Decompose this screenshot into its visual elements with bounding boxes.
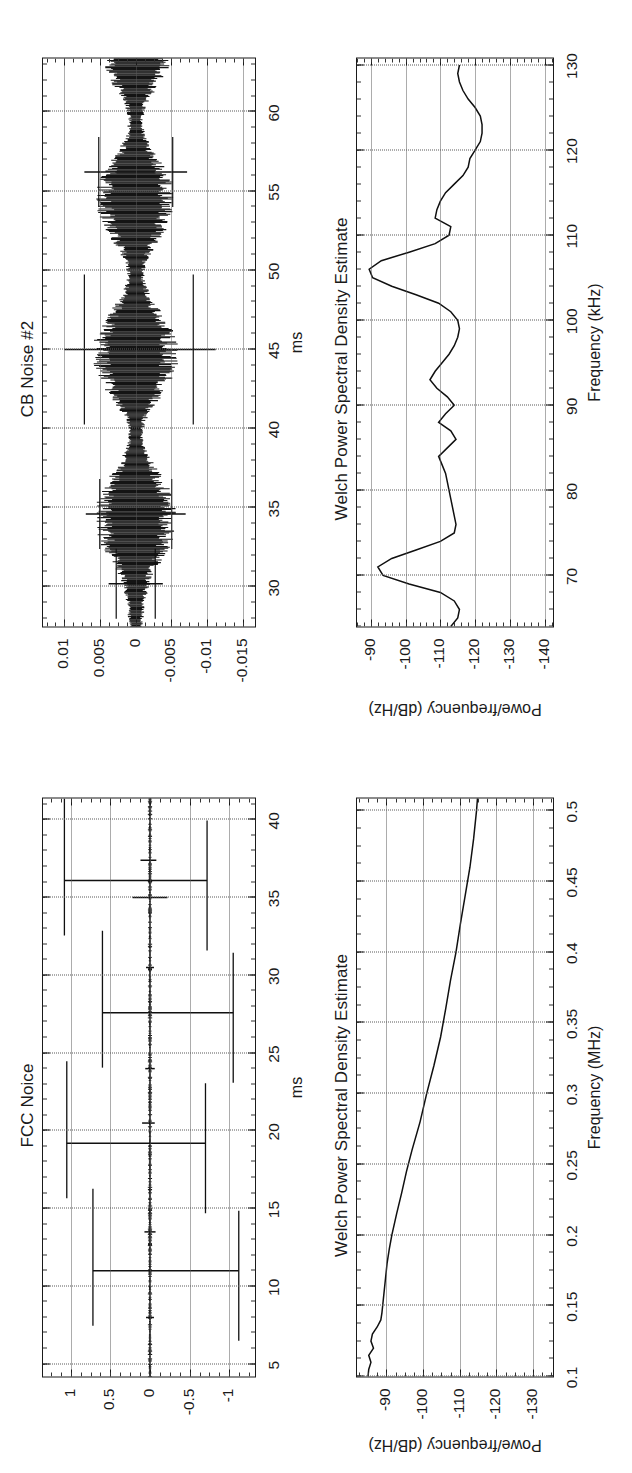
series-cb-time [43, 58, 255, 626]
y-tick-minor [506, 798, 507, 802]
y-tick-minor [377, 798, 378, 802]
y-tick-label: -0.005 [161, 638, 179, 737]
y-tick-minor [531, 58, 532, 62]
xaxis-label-fcc-time: ms [288, 1076, 306, 1097]
y-tick-minor [180, 798, 181, 802]
x-tick-minor [357, 1340, 361, 1341]
y-tick-minor [243, 622, 244, 626]
y-tick-minor [140, 798, 141, 802]
y-tick-minor [460, 1372, 461, 1376]
x-tick-minor [549, 132, 553, 133]
x-tick-minor [357, 1145, 361, 1146]
x-tick-minor [43, 1300, 47, 1301]
y-tick-minor [413, 622, 414, 626]
y-tick-label: -100 [396, 638, 414, 737]
x-tick-minor [357, 438, 361, 439]
gridline-vertical [43, 427, 255, 428]
x-tick-minor [357, 915, 361, 916]
x-tick-minor [357, 968, 361, 969]
x-tick-minor [251, 285, 255, 286]
y-tick-minor [531, 622, 532, 626]
x-tick-label: 60 [265, 104, 283, 121]
y-tick-minor [377, 1372, 378, 1376]
x-tick-minor [357, 370, 361, 371]
y-tick-minor [503, 58, 504, 62]
x-tick-minor [43, 1176, 47, 1177]
x-tick-minor [251, 974, 255, 975]
x-tick-minor [251, 395, 255, 396]
y-tick-minor [225, 58, 226, 62]
x-tick-minor [43, 79, 47, 80]
y-tick-minor [524, 58, 525, 62]
y-tick-minor [136, 58, 137, 62]
x-tick-minor [251, 1363, 255, 1364]
gridline-horizontal [371, 58, 372, 626]
x-tick-minor [43, 881, 47, 882]
gridline-vertical [357, 64, 553, 65]
y-tick-minor [120, 798, 121, 802]
y-tick-minor [198, 58, 199, 62]
x-tick-minor [549, 1304, 553, 1305]
x-tick-minor [43, 380, 47, 381]
x-tick-label: 0.5 [563, 800, 581, 822]
y-tick-minor [180, 622, 181, 626]
x-tick-minor [43, 1254, 47, 1255]
x-tick-minor [357, 115, 361, 116]
x-tick-minor [357, 1251, 361, 1252]
y-tick-minor [216, 622, 217, 626]
x-tick-minor [549, 1092, 553, 1093]
x-tick-minor [357, 608, 361, 609]
y-tick-minor [91, 798, 92, 802]
x-tick-minor [357, 132, 361, 133]
xaxis-label-fcc-psd: Frequency (MHz) [586, 1025, 604, 1149]
y-tick-minor [378, 622, 379, 626]
y-tick-minor [392, 58, 393, 62]
x-tick-minor [251, 1129, 255, 1130]
x-tick-minor [549, 319, 553, 320]
x-tick-minor [549, 1234, 553, 1235]
x-tick-minor [549, 608, 553, 609]
x-tick-minor [549, 968, 553, 969]
x-tick-minor [357, 1181, 361, 1182]
gridline-vertical [43, 1207, 255, 1208]
x-tick-minor [251, 269, 255, 270]
x-tick-minor [43, 1098, 47, 1099]
y-tick-minor [423, 798, 424, 802]
gridline-vertical [43, 110, 255, 111]
x-tick-minor [357, 98, 361, 99]
x-tick-minor [251, 79, 255, 80]
gridline-vertical [43, 585, 255, 586]
panel-cb-psd: Welch Power Spectral Density Estimate 70… [316, 0, 632, 737]
x-tick-minor [43, 1269, 47, 1270]
panel-fcc-psd: Welch Power Spectral Density Estimate 0.… [316, 737, 632, 1473]
x-tick-minor [549, 933, 553, 934]
x-tick-minor [357, 251, 361, 252]
y-tick-minor [110, 798, 111, 802]
y-tick-label: 0.5 [100, 1388, 118, 1473]
y-tick-minor [433, 622, 434, 626]
y-tick-minor [524, 622, 525, 626]
x-tick-minor [357, 1092, 361, 1093]
x-tick-minor [43, 974, 47, 975]
x-tick-minor [357, 489, 361, 490]
x-tick-minor [43, 395, 47, 396]
x-tick-minor [251, 174, 255, 175]
x-tick-minor [43, 475, 47, 476]
y-tick-minor [100, 622, 101, 626]
y-tick-minor [552, 622, 553, 626]
x-tick-minor [43, 1285, 47, 1286]
y-tick-minor [219, 1372, 220, 1376]
y-tick-minor [249, 1372, 250, 1376]
x-tick-minor [549, 880, 553, 881]
series-cb-psd [357, 58, 553, 626]
x-tick-minor [43, 865, 47, 866]
gridline-vertical [43, 1129, 255, 1130]
x-tick-minor [43, 570, 47, 571]
x-tick-label: 55 [265, 183, 283, 200]
y-tick-minor [130, 798, 131, 802]
gridline-horizontal [440, 58, 441, 626]
y-tick-minor [51, 1372, 52, 1376]
panel-title-fcc-time: FCC Noice [18, 737, 38, 1473]
x-tick-minor [357, 1234, 361, 1235]
y-tick-minor [150, 798, 151, 802]
